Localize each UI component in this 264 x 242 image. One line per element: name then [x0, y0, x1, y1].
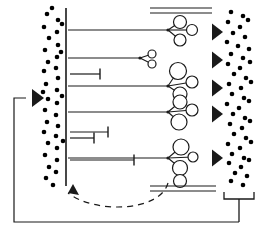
particle-dot-1	[241, 14, 246, 19]
cluster-3-hub	[166, 84, 169, 87]
particle-dot-21	[242, 96, 247, 101]
particle-dot-2	[226, 20, 231, 25]
cluster-1-node-2	[174, 34, 186, 46]
particle-dot-12	[44, 82, 49, 87]
particle-dot-6	[43, 48, 48, 53]
particle-dot-29	[44, 176, 49, 181]
particle-dot-33	[238, 146, 243, 151]
particle-dot-20	[56, 124, 61, 129]
particle-dot-0	[229, 10, 234, 15]
particle-dot-31	[59, 50, 64, 55]
cluster-1-node-1	[187, 25, 198, 36]
particle-dot-31	[244, 136, 249, 141]
particle-dot-11	[56, 76, 61, 81]
cluster-4-node-1	[186, 104, 198, 116]
cluster-1-hub	[166, 28, 169, 31]
cluster-2-hub	[138, 56, 141, 59]
particle-dot-18	[239, 86, 244, 91]
cluster-4-node-0	[173, 95, 187, 109]
particle-dot-2	[42, 25, 47, 30]
cluster-5-node-0	[173, 139, 189, 155]
particle-dot-34	[50, 6, 55, 11]
cluster-1-node-0	[174, 16, 187, 29]
particle-dot-3	[238, 25, 243, 30]
particle-dot-24	[247, 99, 252, 104]
particle-dot-15	[46, 97, 51, 102]
particle-dot-5	[231, 31, 236, 36]
particle-dot-6	[243, 35, 248, 40]
particle-dot-14	[55, 88, 60, 93]
particle-dot-22	[225, 102, 230, 107]
particle-dot-1	[56, 18, 61, 23]
particle-dot-0	[45, 12, 50, 17]
cluster-5-node-2	[173, 161, 188, 176]
particle-dot-28	[240, 126, 245, 131]
particle-dot-37	[227, 161, 232, 166]
schematic-diagram-svg	[0, 0, 264, 242]
particle-dot-4	[47, 36, 52, 41]
particle-dot-3	[55, 30, 60, 35]
particle-dot-33	[61, 139, 66, 144]
cluster-4-node-2	[171, 114, 187, 130]
particle-dot-18	[54, 113, 59, 118]
particle-dot-43	[241, 183, 246, 188]
cluster-2-node-0	[148, 50, 156, 58]
particle-dot-26	[243, 116, 248, 121]
particle-dot-17	[43, 108, 48, 113]
particle-dot-38	[239, 165, 244, 170]
particle-dot-5	[56, 43, 61, 48]
particle-dot-34	[249, 140, 254, 145]
particle-dot-9	[247, 47, 252, 52]
particle-dot-36	[242, 156, 247, 161]
particle-dot-23	[46, 141, 51, 146]
particle-dot-4	[246, 18, 251, 23]
particle-dot-26	[55, 158, 60, 163]
cluster-5-node-1	[188, 152, 198, 162]
particle-dot-40	[233, 171, 238, 176]
particle-dot-19	[249, 80, 254, 85]
particle-dot-13	[41, 90, 46, 95]
particle-dot-39	[247, 158, 252, 163]
particle-dot-7	[55, 55, 60, 60]
particle-dot-14	[248, 60, 253, 65]
particle-dot-20	[230, 92, 235, 97]
particle-dot-21	[42, 130, 47, 135]
particle-dot-17	[227, 82, 232, 87]
particle-dot-8	[236, 44, 241, 49]
particle-dot-13	[238, 66, 243, 71]
particle-dot-27	[47, 165, 52, 170]
particle-dot-22	[54, 134, 59, 139]
particle-dot-28	[54, 170, 59, 175]
cluster-3-node-1	[186, 76, 198, 88]
particle-dot-15	[232, 72, 237, 77]
particle-dot-19	[45, 120, 50, 125]
particle-dot-7	[225, 40, 230, 45]
particle-dot-10	[229, 52, 234, 57]
particle-dot-29	[248, 119, 253, 124]
particle-dot-32	[60, 94, 65, 99]
particle-dot-25	[43, 153, 48, 158]
cluster-4-hub	[166, 110, 169, 113]
cluster-3-node-0	[170, 63, 187, 80]
particle-dot-27	[228, 122, 233, 127]
particle-dot-32	[226, 142, 231, 147]
particle-dot-24	[55, 146, 60, 151]
particle-dot-35	[51, 183, 56, 188]
particle-dot-10	[54, 66, 59, 71]
particle-dot-35	[230, 152, 235, 157]
particle-dot-16	[55, 101, 60, 106]
particle-dot-16	[244, 76, 249, 81]
particle-dot-30	[60, 22, 65, 27]
particle-dot-25	[231, 112, 236, 117]
particle-dot-12	[226, 62, 231, 67]
particle-dot-42	[229, 179, 234, 184]
particle-dot-8	[46, 60, 51, 65]
particle-dot-9	[42, 69, 47, 74]
particle-dot-30	[232, 132, 237, 137]
cluster-2-node-1	[148, 60, 156, 68]
particle-dot-23	[237, 106, 242, 111]
particle-dot-41	[245, 174, 250, 179]
diagram-canvas	[0, 0, 264, 242]
cluster-5-hub	[166, 156, 169, 159]
particle-dot-11	[241, 56, 246, 61]
